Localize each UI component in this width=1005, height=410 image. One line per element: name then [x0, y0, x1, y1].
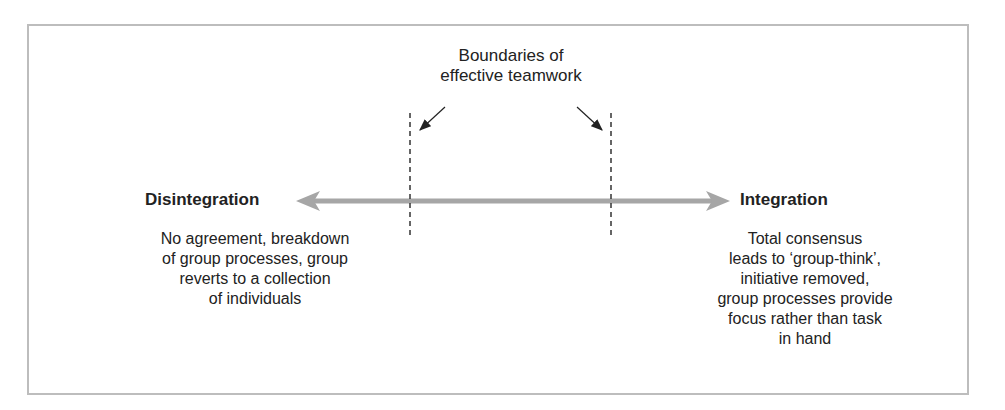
diagram-title: Boundaries of effective teamwork: [411, 46, 611, 86]
description-line: of individuals: [130, 289, 380, 309]
integration-heading: Integration: [740, 190, 870, 210]
description-line: reverts to a collection: [130, 269, 380, 289]
pointer-arrow-left-icon: [420, 107, 445, 130]
disintegration-heading: Disintegration: [145, 190, 295, 210]
pointer-arrow-right-icon: [577, 107, 602, 130]
title-line: Boundaries of: [411, 46, 611, 66]
disintegration-description: No agreement, breakdown of group process…: [130, 229, 380, 309]
description-line: group processes provide: [680, 289, 930, 309]
description-line: leads to ‘group-think’,: [680, 249, 930, 269]
description-line: of group processes, group: [130, 249, 380, 269]
title-line: effective teamwork: [411, 66, 611, 86]
description-line: Total consensus: [680, 229, 930, 249]
continuum-arrow: [296, 191, 730, 211]
description-line: initiative removed,: [680, 269, 930, 289]
description-line: in hand: [680, 329, 930, 349]
integration-description: Total consensus leads to ‘group-think’, …: [680, 229, 930, 349]
description-line: No agreement, breakdown: [130, 229, 380, 249]
description-line: focus rather than task: [680, 309, 930, 329]
